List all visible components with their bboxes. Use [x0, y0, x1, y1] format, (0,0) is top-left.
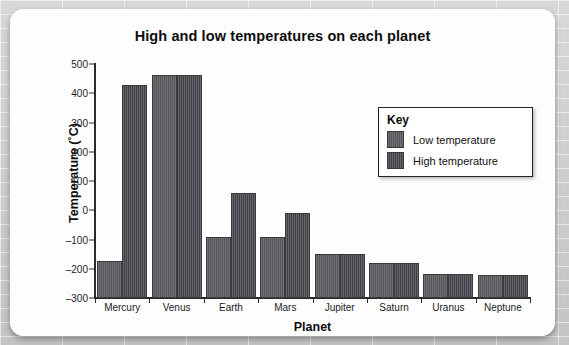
- plot-area: 5004003002001000–100–200–300: [95, 64, 530, 298]
- bar-neptune-high: [503, 275, 528, 298]
- x-axis-label-uranus: Uranus: [421, 302, 475, 313]
- y-tick-mark: [89, 268, 95, 269]
- y-tick-mark: [89, 151, 95, 152]
- y-tick-label: –100: [66, 234, 88, 245]
- legend-label: High temperature: [413, 155, 498, 167]
- y-tick-mark: [89, 181, 95, 182]
- y-tick-label: 500: [71, 59, 88, 70]
- y-tick-mark: [89, 93, 95, 94]
- y-tick-label: 400: [71, 88, 88, 99]
- legend-item: High temperature: [387, 152, 524, 169]
- x-axis-label-jupiter: Jupiter: [313, 302, 367, 313]
- x-tick-mark: [530, 297, 531, 303]
- x-axis-label-earth: Earth: [204, 302, 258, 313]
- y-tick-label: –200: [66, 263, 88, 274]
- bar-saturn-low: [369, 263, 394, 298]
- bar-jupiter-low: [315, 254, 340, 298]
- bar-earth-low: [206, 237, 231, 298]
- y-axis-title: Temperature (˚C): [67, 123, 81, 223]
- legend-item: Low temperature: [387, 131, 524, 148]
- y-tick-label: 0: [82, 205, 88, 216]
- legend-swatch-high: [387, 152, 404, 169]
- bar-mars-high: [285, 213, 310, 298]
- bar-neptune-low: [478, 275, 503, 298]
- bar-mercury-high: [122, 85, 147, 298]
- legend-label: Low temperature: [413, 134, 496, 146]
- bar-uranus-low: [423, 274, 448, 298]
- chart-card: High and low temperatures on each planet…: [10, 9, 555, 336]
- x-axis-label-neptune: Neptune: [476, 302, 530, 313]
- y-tick-label: 100: [71, 176, 88, 187]
- bar-saturn-high: [394, 263, 419, 298]
- legend-title: Key: [387, 113, 524, 127]
- y-tick-mark: [89, 64, 95, 65]
- y-tick-mark: [89, 210, 95, 211]
- y-tick-label: –300: [66, 293, 88, 304]
- legend-entries: Low temperatureHigh temperature: [387, 131, 524, 169]
- bar-uranus-high: [448, 274, 473, 298]
- bar-mars-low: [260, 237, 285, 298]
- x-axis-title: Planet: [95, 320, 530, 334]
- x-axis-label-saturn: Saturn: [367, 302, 421, 313]
- y-tick-mark: [89, 122, 95, 123]
- y-tick-mark: [89, 239, 95, 240]
- legend-box: Key Low temperatureHigh temperature: [378, 107, 533, 177]
- x-axis-label-mercury: Mercury: [95, 302, 149, 313]
- bar-venus-high: [177, 75, 202, 298]
- y-tick-label: 300: [71, 117, 88, 128]
- x-axis-label-venus: Venus: [149, 302, 203, 313]
- x-axis-label-mars: Mars: [258, 302, 312, 313]
- chart-title: High and low temperatures on each planet: [10, 28, 555, 44]
- bar-jupiter-high: [340, 254, 365, 298]
- y-tick-label: 200: [71, 146, 88, 157]
- bar-mercury-low: [97, 261, 122, 298]
- bar-venus-low: [152, 75, 177, 298]
- legend-swatch-low: [387, 131, 404, 148]
- bar-earth-high: [231, 193, 256, 298]
